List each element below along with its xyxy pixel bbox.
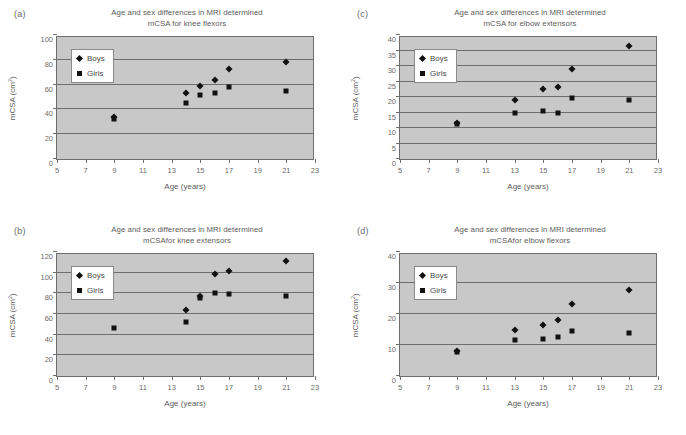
legend-item-girls: Girls xyxy=(77,286,105,295)
gridline xyxy=(400,344,656,345)
y-tick-mark xyxy=(396,34,400,35)
legend-item-boys: Boys xyxy=(77,54,105,63)
y-tick-mark xyxy=(53,313,57,314)
data-point-boy xyxy=(540,86,547,93)
legend-marker-boys-icon xyxy=(419,272,426,279)
data-point-girl xyxy=(512,110,517,115)
x-tick-mark xyxy=(172,376,173,380)
x-tick-label: 21 xyxy=(625,383,633,392)
legend-marker-boys-icon xyxy=(76,55,83,62)
data-point-girl xyxy=(184,100,189,105)
x-tick-label: 5 xyxy=(398,166,402,175)
x-tick-mark xyxy=(429,376,430,380)
y-axis-label: mCSA (cm2) xyxy=(349,253,361,377)
y-tick-mark xyxy=(396,81,400,82)
y-tick-mark xyxy=(53,133,57,134)
panel-c: (c)Age and sex differences in MRI determ… xyxy=(343,0,686,217)
y-tick-mark xyxy=(53,354,57,355)
x-tick-mark xyxy=(200,159,201,163)
x-tick-label: 13 xyxy=(510,383,518,392)
panel-title: Age and sex differences in MRI determine… xyxy=(385,7,675,29)
y-tick-label: 10 xyxy=(388,345,396,354)
plot-area: 02040608010012057911131517192123BoysGirl… xyxy=(56,253,314,377)
x-tick-mark xyxy=(258,376,259,380)
y-tick-mark xyxy=(396,251,400,252)
x-tick-mark xyxy=(629,376,630,380)
x-axis-label: Age (years) xyxy=(399,399,657,408)
y-tick-mark xyxy=(396,344,400,345)
legend-item-girls: Girls xyxy=(77,69,105,78)
data-point-girl xyxy=(570,328,575,333)
plot-area: 01020304057911131517192123BoysGirls xyxy=(399,253,657,377)
y-tick-label: 35 xyxy=(388,50,396,59)
x-tick-label: 19 xyxy=(253,383,261,392)
legend: BoysGirls xyxy=(71,266,114,300)
legend-item-boys: Boys xyxy=(420,271,448,280)
gridline xyxy=(400,143,656,144)
gridline xyxy=(400,313,656,314)
x-tick-label: 11 xyxy=(482,166,490,175)
data-point-boy xyxy=(283,258,290,265)
x-tick-mark xyxy=(572,159,573,163)
x-tick-mark xyxy=(658,376,659,380)
y-tick-label: 40 xyxy=(388,252,396,261)
y-axis-label: mCSA (cm2) xyxy=(349,36,361,160)
legend-label-girls: Girls xyxy=(87,69,103,78)
data-point-boy xyxy=(626,287,633,294)
data-point-girl xyxy=(112,116,117,121)
y-tick-label: 0 xyxy=(49,376,53,385)
x-tick-label: 23 xyxy=(311,383,319,392)
x-tick-label: 7 xyxy=(427,166,431,175)
x-tick-label: 15 xyxy=(196,383,204,392)
x-tick-label: 19 xyxy=(596,383,604,392)
x-tick-label: 23 xyxy=(654,166,662,175)
gridline xyxy=(57,334,313,335)
legend: BoysGirls xyxy=(414,266,457,300)
panel-title: Age and sex differences in MRI determine… xyxy=(385,224,675,246)
legend: BoysGirls xyxy=(414,49,457,83)
x-tick-label: 7 xyxy=(84,166,88,175)
y-tick-label: 10 xyxy=(388,128,396,137)
x-tick-mark xyxy=(457,376,458,380)
data-point-boy xyxy=(211,271,218,278)
x-tick-label: 15 xyxy=(539,383,547,392)
panel-title-line1: Age and sex differences in MRI determine… xyxy=(42,224,332,235)
panel-title-line2: mCSAfor elbow flexors xyxy=(385,235,675,246)
x-tick-mark xyxy=(486,376,487,380)
y-tick-mark xyxy=(396,313,400,314)
y-tick-mark xyxy=(396,143,400,144)
x-tick-mark xyxy=(86,376,87,380)
data-point-girl xyxy=(212,91,217,96)
y-tick-label: 20 xyxy=(388,314,396,323)
y-tick-label: 40 xyxy=(45,334,53,343)
x-tick-mark xyxy=(429,159,430,163)
x-tick-mark xyxy=(286,376,287,380)
y-tick-label: 40 xyxy=(45,109,53,118)
legend-label-girls: Girls xyxy=(87,286,103,295)
x-tick-label: 19 xyxy=(253,166,261,175)
x-tick-mark xyxy=(286,159,287,163)
x-tick-label: 9 xyxy=(455,383,459,392)
x-tick-label: 5 xyxy=(55,383,59,392)
y-tick-mark xyxy=(396,96,400,97)
x-tick-label: 23 xyxy=(654,383,662,392)
data-point-boy xyxy=(511,97,518,104)
x-tick-label: 7 xyxy=(84,383,88,392)
data-point-girl xyxy=(112,326,117,331)
legend: BoysGirls xyxy=(71,49,114,83)
gridline xyxy=(57,133,313,134)
y-tick-label: 20 xyxy=(388,97,396,106)
y-tick-label: 60 xyxy=(45,314,53,323)
data-point-girl xyxy=(541,336,546,341)
legend-marker-boys-icon xyxy=(76,272,83,279)
data-point-girl xyxy=(284,88,289,93)
y-tick-label: 25 xyxy=(388,81,396,90)
data-point-girl xyxy=(212,291,217,296)
gridline xyxy=(400,112,656,113)
x-tick-label: 13 xyxy=(167,166,175,175)
legend-item-girls: Girls xyxy=(420,69,448,78)
x-tick-label: 5 xyxy=(55,166,59,175)
x-tick-mark xyxy=(229,376,230,380)
y-tick-label: 0 xyxy=(49,159,53,168)
x-tick-mark xyxy=(457,159,458,163)
